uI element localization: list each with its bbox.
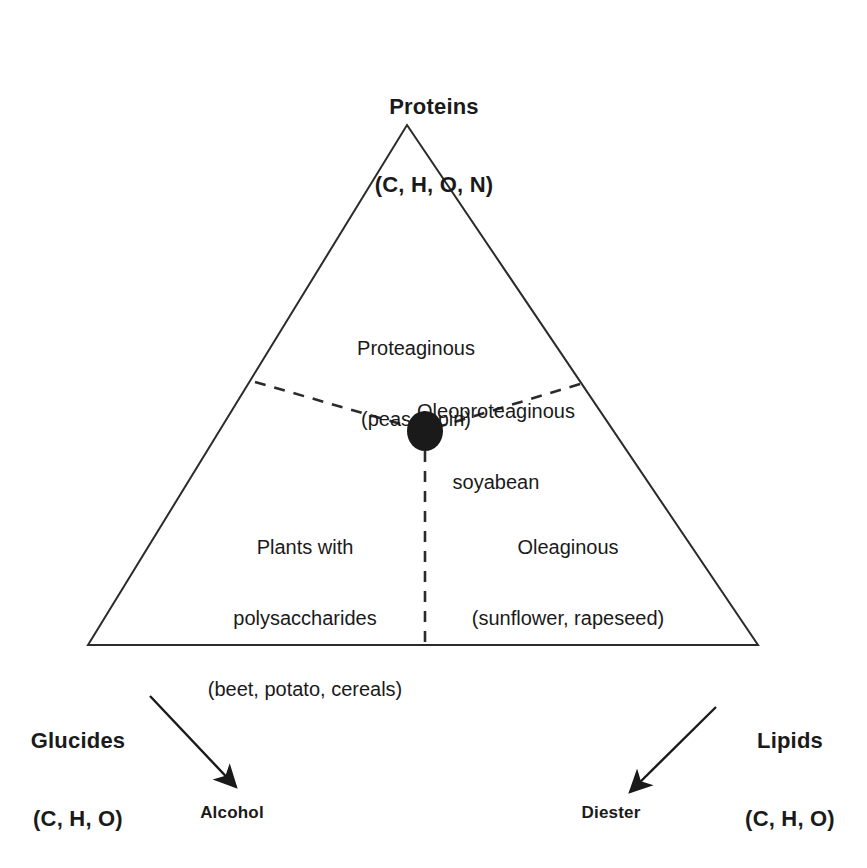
- region-polysaccharides-line1: Plants with: [208, 536, 403, 560]
- vertex-glucides-formula: (C, H, O): [31, 806, 126, 832]
- region-oleoproteaginous-line1: Oleoproteaginous: [417, 400, 575, 424]
- product-label-diester: Diester: [581, 803, 640, 823]
- region-label-polysaccharides: Plants with polysaccharides (beet, potat…: [208, 489, 403, 749]
- vertex-lipids-formula: (C, H, O): [745, 806, 835, 832]
- region-label-oleaginous: Oleaginous (sunflower, rapeseed): [472, 489, 664, 678]
- region-polysaccharides-line3: (beet, potato, cereals): [208, 678, 403, 702]
- vertex-label-glucides: Glucides (C, H, O): [31, 676, 126, 868]
- vertex-label-proteins: Proteins (C, H, O, N): [375, 42, 494, 250]
- vertex-label-lipids: Lipids (C, H, O): [745, 676, 835, 868]
- vertex-proteins-name: Proteins: [375, 94, 494, 120]
- region-oleaginous-line2: (sunflower, rapeseed): [472, 607, 664, 631]
- region-polysaccharides-line2: polysaccharides: [208, 607, 403, 631]
- arrow-lipids-to-diester: [630, 707, 716, 792]
- vertex-proteins-formula: (C, H, O, N): [375, 172, 494, 198]
- region-oleaginous-line1: Oleaginous: [472, 536, 664, 560]
- vertex-lipids-name: Lipids: [745, 728, 835, 754]
- product-label-alcohol: Alcohol: [200, 803, 264, 823]
- ternary-diagram: Proteins (C, H, O, N) Glucides (C, H, O)…: [0, 0, 867, 868]
- vertex-glucides-name: Glucides: [31, 728, 126, 754]
